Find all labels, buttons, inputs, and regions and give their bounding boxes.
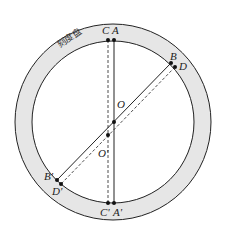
point-b-prime <box>55 178 59 182</box>
point-c <box>106 38 110 42</box>
label-d-prime: D' <box>51 185 63 197</box>
dial-eccentricity-diagram: 刻度盘 C A B D O O' B' D' C' A' <box>0 0 227 234</box>
label-b-prime: B' <box>44 170 54 182</box>
point-o-prime <box>106 133 110 137</box>
label-c: C <box>102 24 110 36</box>
label-c-prime: C' <box>100 206 110 218</box>
label-a: A <box>111 24 119 36</box>
label-a-prime: A' <box>112 206 123 218</box>
label-o: O <box>117 98 125 110</box>
label-b: B <box>170 50 177 62</box>
point-a <box>112 38 116 42</box>
label-d: D <box>178 60 187 72</box>
point-d <box>173 65 177 69</box>
point-a-prime <box>112 201 116 205</box>
point-c-prime <box>106 201 110 205</box>
point-o <box>112 120 116 124</box>
label-o-prime: O' <box>98 147 109 159</box>
